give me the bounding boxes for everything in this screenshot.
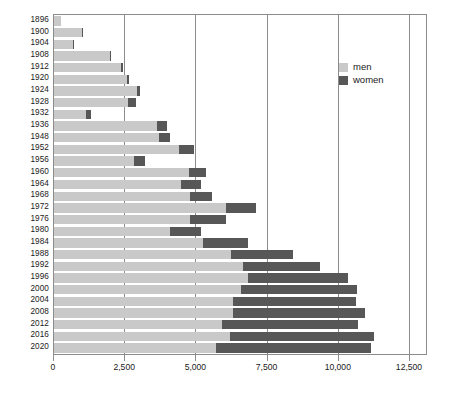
bar-segment-women-1924 (137, 86, 141, 95)
bar-row-1932 (54, 110, 91, 119)
bar-segment-men-1932 (54, 110, 86, 119)
bar-segment-women-1960 (189, 168, 206, 177)
bar-segment-women-2004 (233, 297, 356, 306)
bar-segment-men-1988 (54, 250, 231, 259)
x-axis-tick-5000 (195, 355, 196, 361)
bar-row-1900 (54, 28, 82, 37)
y-axis-label-1948: 1948 (0, 132, 49, 142)
x-axis-label-7500: 7,500 (256, 362, 278, 372)
bar-row-1976 (54, 215, 226, 224)
y-axis-label-1936: 1936 (0, 120, 49, 130)
y-axis-label-1924: 1924 (0, 85, 49, 95)
bar-segment-men-2008 (54, 308, 233, 317)
legend-item-men: men (339, 62, 384, 72)
y-axis-label-2020: 2020 (0, 342, 49, 352)
y-axis-label-2000: 2000 (0, 284, 49, 294)
bar-row-2016 (54, 332, 374, 341)
bar-segment-men-1900 (54, 28, 82, 37)
y-axis-label-1904: 1904 (0, 38, 49, 48)
y-axis-label-1976: 1976 (0, 214, 49, 224)
bar-segment-women-2016 (230, 332, 374, 341)
y-axis-label-1896: 1896 (0, 15, 49, 25)
bar-segment-men-1968 (54, 192, 190, 201)
bar-segment-men-1964 (54, 180, 181, 189)
bar-row-2020 (54, 343, 371, 352)
bar-row-1948 (54, 133, 170, 142)
bar-row-1912 (54, 63, 123, 72)
y-axis-label-1964: 1964 (0, 179, 49, 189)
bar-segment-men-1904 (54, 40, 73, 49)
bar-segment-women-2020 (216, 343, 371, 352)
x-axis-label-2500: 2,500 (113, 362, 135, 372)
y-axis-label-2012: 2012 (0, 319, 49, 329)
bar-segment-men-2020 (54, 343, 216, 352)
bar-segment-men-1976 (54, 215, 190, 224)
bar-segment-women-2012 (222, 320, 358, 329)
bar-segment-men-2016 (54, 332, 230, 341)
x-axis-tick-7500 (267, 355, 268, 361)
bar-row-1996 (54, 273, 348, 282)
bar-segment-women-1936 (157, 121, 166, 130)
bar-segment-men-1972 (54, 203, 226, 212)
bar-segment-men-1896 (54, 16, 61, 25)
legend-swatch-women (339, 76, 348, 85)
bar-row-1956 (54, 156, 145, 165)
y-axis-label-1968: 1968 (0, 190, 49, 200)
bar-row-1988 (54, 250, 293, 259)
bar-row-2012 (54, 320, 358, 329)
bar-row-1968 (54, 192, 212, 201)
bar-row-1928 (54, 98, 136, 107)
y-axis-label-2008: 2008 (0, 307, 49, 317)
bar-segment-men-2012 (54, 320, 222, 329)
bar-segment-women-1900 (82, 28, 83, 37)
legend-swatch-men (339, 63, 348, 72)
bar-segment-women-1976 (190, 215, 226, 224)
x-axis-label-10000: 10,000 (325, 362, 351, 372)
y-axis-label-1900: 1900 (0, 27, 49, 37)
y-axis-label-2004: 2004 (0, 295, 49, 305)
bar-row-2004 (54, 297, 356, 306)
bar-segment-women-1984 (203, 238, 248, 247)
bar-segment-men-2000 (54, 285, 241, 294)
bar-row-1992 (54, 262, 320, 271)
bar-segment-men-1952 (54, 145, 179, 154)
y-axis-label-1960: 1960 (0, 167, 49, 177)
bar-segment-women-1964 (181, 180, 200, 189)
y-axis-label-1956: 1956 (0, 155, 49, 165)
bar-row-1980 (54, 227, 201, 236)
legend-label-men: men (353, 62, 371, 72)
chart-legend: menwomen (339, 62, 384, 85)
bar-segment-men-1936 (54, 121, 157, 130)
bar-segment-women-1928 (128, 98, 136, 107)
bar-segment-women-1980 (170, 227, 202, 236)
bar-segment-women-1988 (231, 250, 293, 259)
x-axis-label-12500: 12,500 (396, 362, 422, 372)
bar-segment-men-1920 (54, 75, 127, 84)
bar-segment-men-1924 (54, 86, 137, 95)
y-axis-label-1980: 1980 (0, 225, 49, 235)
bar-segment-women-1948 (159, 133, 170, 142)
bar-segment-men-1980 (54, 227, 170, 236)
y-axis-label-1952: 1952 (0, 143, 49, 153)
bar-row-1984 (54, 238, 248, 247)
y-axis-label-1972: 1972 (0, 202, 49, 212)
bar-segment-women-1992 (243, 262, 320, 271)
bar-row-2008 (54, 308, 365, 317)
bar-segment-men-1960 (54, 168, 189, 177)
x-axis-tick-0 (53, 355, 54, 361)
bar-row-1896 (54, 16, 61, 25)
x-axis-tick-2500 (124, 355, 125, 361)
bar-segment-men-1908 (54, 51, 110, 60)
bar-row-2000 (54, 285, 357, 294)
y-axis-label-1988: 1988 (0, 249, 49, 259)
bar-segment-women-1908 (110, 51, 111, 60)
bar-row-1920 (54, 75, 129, 84)
bar-segment-women-1912 (121, 63, 122, 72)
legend-label-women: women (353, 75, 384, 85)
bar-segment-women-1972 (226, 203, 256, 212)
bar-row-1972 (54, 203, 256, 212)
x-axis-label-0: 0 (51, 362, 56, 372)
bar-segment-men-1956 (54, 156, 134, 165)
bar-row-1952 (54, 145, 194, 154)
legend-item-women: women (339, 75, 384, 85)
